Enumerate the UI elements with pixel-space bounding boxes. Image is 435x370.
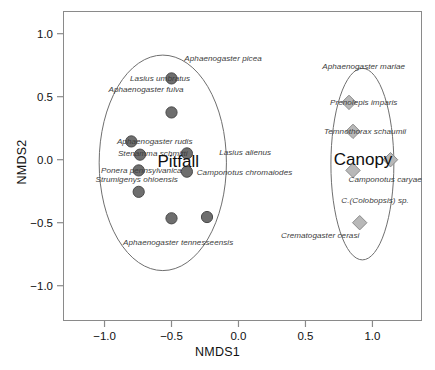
species-label: Aphaenogaster rudis	[117, 136, 193, 145]
x-tick-label: 0.5	[297, 330, 313, 342]
species-label: Aphaenogaster tennesseensis	[123, 237, 233, 246]
species-label: Prenolepis imparis	[330, 97, 397, 106]
y-tick-label: −0.5	[11, 217, 53, 229]
species-label: Aphaenogaster fulva	[108, 84, 183, 93]
species-label: Crematogaster cerasi	[281, 230, 359, 239]
y-tick-label: −1.0	[11, 280, 53, 292]
y-tick-label: 0.5	[11, 91, 53, 103]
x-tick-label: 1.0	[364, 330, 380, 342]
species-label: Aphaenogaster picea	[184, 54, 261, 63]
y-axis-title: NMDS2	[15, 122, 29, 202]
x-tick-label: −0.5	[160, 330, 183, 342]
species-label: Lasius alienus	[219, 148, 271, 157]
species-label: Camponotus caryae	[349, 175, 422, 184]
species-label: Aphaenogaster mariae	[322, 61, 405, 70]
y-tick-label: 1.0	[11, 28, 53, 40]
x-axis-title: NMDS1	[0, 345, 435, 359]
group-label-pitfall: Pitfall	[157, 152, 199, 172]
nmds-ordination-plot: Aphaenogaster piceaLasius umbratusAphaen…	[0, 0, 435, 370]
x-tick-label: −1.0	[93, 330, 116, 342]
species-label: Camponotus chromaiodes	[197, 168, 293, 177]
group-label-canopy: Canopy	[334, 150, 393, 170]
species-label: C.(Colobopsis) sp.	[341, 196, 408, 205]
x-tick-label: 0.0	[230, 330, 246, 342]
species-label: Temnothorax schaumii	[324, 127, 406, 136]
species-label: Strumigenys ohioensis	[95, 174, 177, 183]
species-label: Lasius umbratus	[130, 73, 190, 82]
